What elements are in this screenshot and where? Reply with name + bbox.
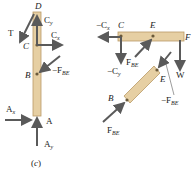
force-t-label: T	[8, 28, 14, 38]
force-fbe-b-label: FBE	[107, 125, 120, 136]
leader-line	[166, 64, 174, 95]
force-neg-fbe-label: −FBE	[52, 65, 70, 76]
point-c-label: C	[23, 41, 30, 51]
force-fbe-e-label: FBE	[126, 57, 139, 68]
force-arrows-cef-be	[99, 37, 180, 122]
force-ay-label: Ay	[44, 139, 54, 150]
member-be	[124, 66, 160, 103]
point-b2-label: B	[108, 93, 114, 103]
force-neg-fbe-e-label: −FBE	[161, 95, 179, 106]
point-b-label: B	[25, 70, 31, 80]
force-cy-label: Cy	[44, 15, 53, 26]
figure-caption: (c)	[31, 158, 41, 168]
force-cx-label: Cx	[51, 30, 60, 41]
point-d-label: D	[34, 1, 42, 11]
force-neg-cx-label: −Cx	[96, 20, 110, 31]
force-neg-cy-label: −Cy	[107, 66, 121, 77]
point-f-label: F	[184, 32, 191, 42]
force-w-label: W	[176, 70, 185, 80]
member-cef	[118, 32, 184, 41]
force-ax-label: Ax	[6, 104, 16, 115]
point-e-label: E	[149, 20, 156, 30]
point-a-label: A	[46, 116, 53, 126]
point-c2-label: C	[118, 20, 125, 30]
free-body-diagram: D C B A T Cy Cx −FBE Ax Ay (c) −Cx C E F…	[0, 0, 192, 172]
point-e2-label: E	[159, 74, 166, 84]
